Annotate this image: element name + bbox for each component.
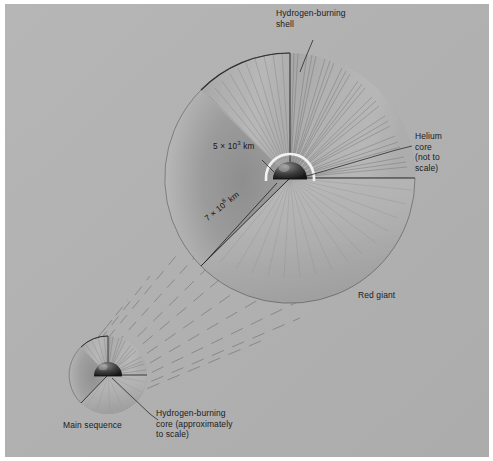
helium-core-highlight [279, 164, 290, 172]
hydrogen-burning-core-highlight [99, 364, 108, 370]
star-structure-diagram [0, 0, 493, 461]
figure-container: Hydrogen-burning shell Helium core (not … [0, 0, 493, 461]
label-main-sequence: Main sequence [63, 420, 122, 431]
label-core-radius-measurement: 5 × 103 km [213, 142, 255, 153]
core-radius-unit: km [241, 142, 255, 151]
label-red-giant: Red giant [358, 290, 395, 301]
label-hydrogen-burning-shell: Hydrogen-burning shell [276, 8, 346, 29]
label-helium-core: Helium core (not to scale) [415, 131, 442, 173]
core-radius-mantissa: 5 × 10 [213, 142, 237, 151]
label-hydrogen-burning-core: Hydrogen-burning core (approximately to … [156, 408, 233, 440]
